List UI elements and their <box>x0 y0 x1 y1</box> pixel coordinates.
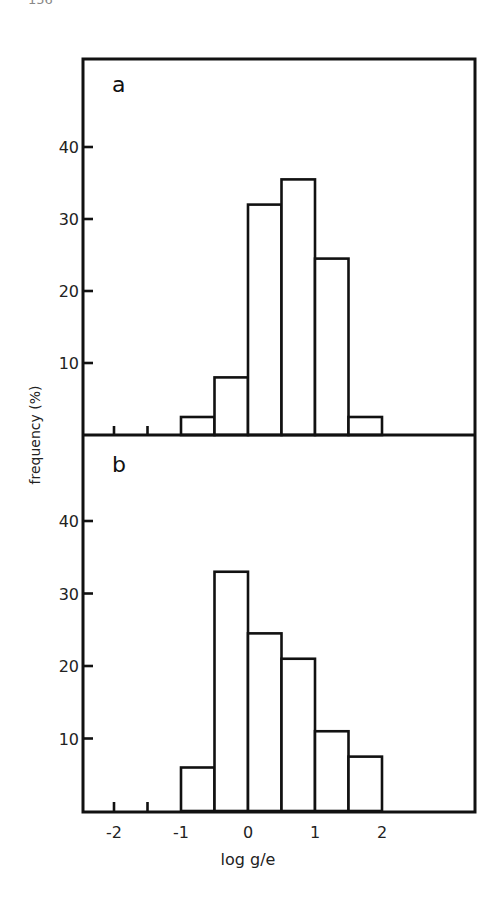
x-axis-label: log g/e <box>221 850 276 869</box>
x-tick-label: 2 <box>377 823 387 842</box>
y-axis-label: frequency (%) <box>27 386 43 485</box>
histogram-bar <box>215 377 249 435</box>
y-tick-label: 20 <box>59 657 79 676</box>
histogram-bar <box>315 259 349 435</box>
histogram-bar <box>282 659 316 811</box>
y-tick-label: 10 <box>59 354 79 373</box>
histogram-bar <box>282 179 316 435</box>
histogram-bar <box>181 768 215 812</box>
histogram-figure: 1020304010203040 a b frequency (%) log g… <box>0 0 498 917</box>
histogram-bar <box>349 757 383 811</box>
y-tick-label: 40 <box>59 138 79 157</box>
histogram-bar <box>349 417 383 435</box>
y-tick-label: 30 <box>59 210 79 229</box>
x-tick-label: -2 <box>106 823 122 842</box>
histogram-bar <box>248 633 282 811</box>
x-tick-label: 0 <box>243 823 253 842</box>
histogram-bar <box>315 731 349 811</box>
y-tick-label: 30 <box>59 585 79 604</box>
histogram-bar <box>248 205 282 435</box>
x-tick-label: -1 <box>173 823 189 842</box>
panel-a-label: a <box>112 72 125 97</box>
panel-b: 10203040 <box>59 512 382 811</box>
panel-a: 10203040 <box>59 138 382 435</box>
panel-b-label: b <box>112 452 126 477</box>
histogram-bar <box>181 417 215 435</box>
x-tick-label: 1 <box>310 823 320 842</box>
histogram-bar <box>215 572 249 811</box>
y-tick-label: 10 <box>59 730 79 749</box>
y-tick-label: 20 <box>59 282 79 301</box>
y-tick-label: 40 <box>59 512 79 531</box>
